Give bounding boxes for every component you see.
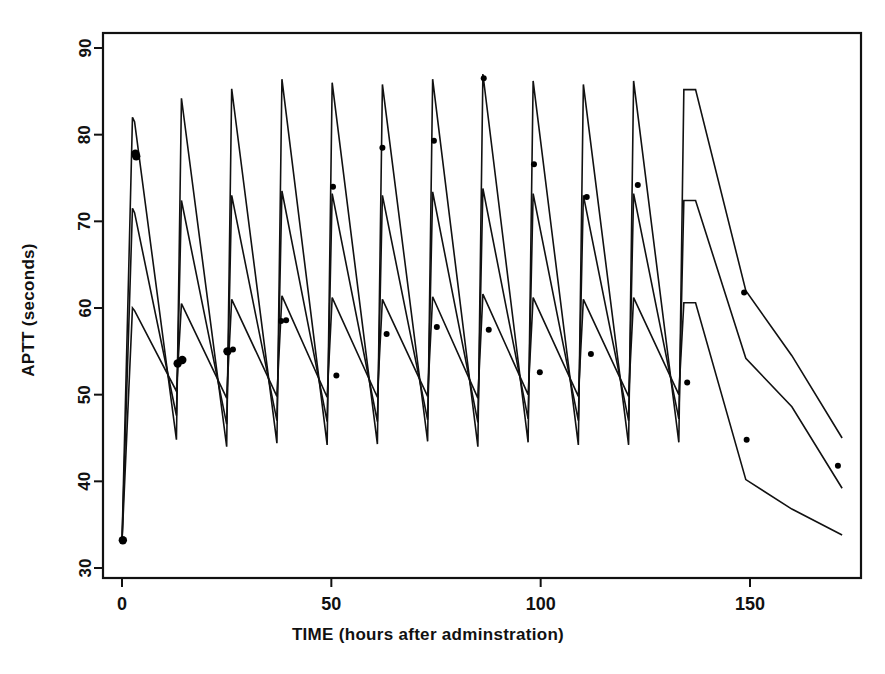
data-point	[119, 536, 127, 544]
data-point	[588, 351, 594, 357]
data-point	[431, 138, 437, 144]
x-axis-label: TIME (hours after adminstration)	[292, 625, 564, 644]
data-point	[486, 327, 492, 333]
data-point	[434, 324, 440, 330]
data-point	[384, 331, 390, 337]
data-point	[744, 437, 750, 443]
data-point	[741, 289, 747, 295]
chart-background	[0, 0, 885, 674]
y-tick-label: 60	[76, 299, 95, 318]
y-tick-label: 50	[76, 385, 95, 404]
x-tick-label: 50	[321, 594, 341, 614]
data-point	[537, 369, 543, 375]
data-point	[178, 356, 186, 364]
data-point	[584, 194, 590, 200]
data-point	[379, 145, 385, 151]
x-tick-label: 100	[526, 594, 556, 614]
y-tick-label: 90	[76, 39, 95, 58]
data-point	[278, 318, 284, 324]
chart-figure: 30405060708090 050100150 APTT (seconds) …	[0, 0, 885, 674]
data-point	[333, 373, 339, 379]
data-point	[531, 161, 537, 167]
data-point	[330, 184, 336, 190]
x-tick-label: 0	[117, 594, 127, 614]
x-tick-label: 150	[735, 594, 765, 614]
y-tick-label: 70	[76, 212, 95, 231]
y-tick-label: 40	[76, 472, 95, 491]
data-point	[835, 463, 841, 469]
y-tick-label: 80	[76, 125, 95, 144]
data-point	[481, 75, 487, 81]
data-point	[283, 317, 289, 323]
aptt-time-chart: 30405060708090 050100150 APTT (seconds) …	[0, 0, 885, 674]
y-axis-label: APTT (seconds)	[19, 243, 38, 377]
data-point	[230, 347, 236, 353]
y-tick-label: 30	[76, 559, 95, 578]
data-point	[635, 182, 641, 188]
data-point	[684, 380, 690, 386]
data-point	[132, 152, 140, 160]
